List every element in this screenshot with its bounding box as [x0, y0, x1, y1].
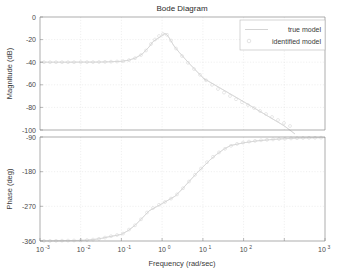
magnitude-tick-label-3: -60 — [26, 81, 36, 88]
x-tick-exponent-1: -2 — [86, 244, 91, 250]
legend-box — [240, 20, 325, 50]
magnitude-axis-label: Magnitude (dB) — [5, 47, 14, 99]
phase-tick-label-0: -90 — [26, 134, 36, 141]
x-tick-label-2: 10 — [118, 246, 126, 253]
phase-tick-label-2: -270 — [22, 203, 36, 210]
phase-axis-label: Phase (deg) — [5, 168, 14, 209]
phase-tick-label-3: -360 — [22, 238, 36, 245]
x-tick-label-3: 10 — [158, 246, 166, 253]
x-tick-label-5: 10 — [240, 246, 248, 253]
x-axis-label: Frequency (rad/sec) — [148, 259, 216, 268]
magnitude-tick-label-0: 0 — [32, 14, 36, 21]
legend-label-true-model: true model — [288, 26, 322, 33]
magnitude-tick-label-2: -40 — [26, 59, 36, 66]
x-tick-exponent-0: -3 — [45, 244, 50, 250]
x-tick-label-4: 10 — [199, 246, 207, 253]
legend[interactable]: true model identified model — [240, 20, 325, 50]
x-tick-label-0: 10 — [36, 246, 44, 253]
magnitude-tick-label-1: -20 — [26, 36, 36, 43]
x-tick-exponent-5: 2 — [249, 244, 252, 250]
x-tick-exponent-6: 3 — [328, 244, 331, 250]
x-tick-label-6: 10 — [318, 246, 326, 253]
x-tick-exponent-3: 0 — [168, 244, 171, 250]
plot-title: Bode Diagram — [156, 4, 207, 13]
x-tick-exponent-4: 1 — [209, 244, 212, 250]
x-tick-exponent-2: -1 — [127, 244, 132, 250]
magnitude-tick-label-4: -80 — [26, 104, 36, 111]
phase-tick-label-1: -180 — [22, 168, 36, 175]
magnitude-tick-label-5: -100 — [22, 127, 36, 134]
legend-label-identified-model: identified model — [272, 38, 321, 45]
bode-diagram-figure: Bode Diagram — [0, 0, 341, 274]
x-tick-label-1: 10 — [77, 246, 85, 253]
